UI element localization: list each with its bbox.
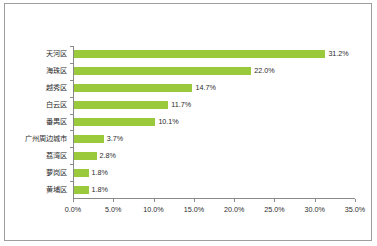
y-axis-tick (70, 46, 73, 47)
x-axis-tick-label: 10.0% (143, 206, 163, 213)
y-axis-tick (70, 130, 73, 131)
x-axis-tick (73, 199, 74, 202)
y-axis-tick (70, 181, 73, 182)
bar (74, 50, 325, 58)
bar-value-label: 3.7% (107, 135, 123, 142)
bar-value-label: 1.8% (92, 169, 108, 176)
bar-value-label: 22.0% (254, 68, 274, 75)
x-axis-tick (234, 199, 235, 202)
x-axis-tick (355, 199, 356, 202)
x-axis-tick (194, 199, 195, 202)
bar-value-label: 10.1% (158, 118, 178, 125)
category-label: 天河区 (46, 51, 67, 58)
bar (74, 169, 89, 177)
bar (74, 152, 97, 160)
category-label: 番禺区 (46, 118, 67, 125)
bar (74, 101, 168, 109)
plot-area: 天河区海珠区越秀区白云区番禺区广州周边城市荔湾区萝岗区黄埔区 31.2%22.0… (5, 4, 371, 240)
chart-frame: 天河区海珠区越秀区白云区番禺区广州周边城市荔湾区萝岗区黄埔区 31.2%22.0… (4, 3, 372, 241)
category-label: 萝岗区 (46, 169, 67, 176)
bar (74, 118, 155, 126)
bar-value-label: 2.8% (100, 152, 116, 159)
category-label: 海珠区 (46, 68, 67, 75)
y-axis-tick (70, 63, 73, 64)
x-axis-line (73, 198, 355, 199)
y-axis-tick (70, 147, 73, 148)
y-axis-tick (70, 80, 73, 81)
x-axis-tick (154, 199, 155, 202)
y-axis-tick (70, 114, 73, 115)
bar (74, 67, 251, 75)
x-axis-tick-label: 0.0% (65, 206, 81, 213)
bar (74, 84, 192, 92)
y-axis-tick (70, 97, 73, 98)
category-label: 越秀区 (46, 85, 67, 92)
category-label: 黄埔区 (46, 186, 67, 193)
y-axis-tick (70, 164, 73, 165)
category-label: 白云区 (46, 102, 67, 109)
x-axis-tick-label: 25.0% (264, 206, 284, 213)
bar-value-label: 1.8% (92, 186, 108, 193)
x-axis-tick-label: 15.0% (184, 206, 204, 213)
bar (74, 135, 104, 143)
bar-value-label: 11.7% (171, 102, 191, 109)
x-axis-tick-label: 35.0% (345, 206, 365, 213)
x-axis-tick-label: 5.0% (105, 206, 121, 213)
x-axis-tick (113, 199, 114, 202)
x-axis-tick (315, 199, 316, 202)
bar-value-label: 14.7% (195, 85, 215, 92)
category-label: 广州周边城市 (25, 135, 67, 142)
category-label: 荔湾区 (46, 152, 67, 159)
bar-value-label: 31.2% (328, 51, 348, 58)
x-axis-tick (274, 199, 275, 202)
x-axis-tick-label: 30.0% (305, 206, 325, 213)
x-axis-tick-label: 20.0% (224, 206, 244, 213)
bar (74, 186, 89, 194)
